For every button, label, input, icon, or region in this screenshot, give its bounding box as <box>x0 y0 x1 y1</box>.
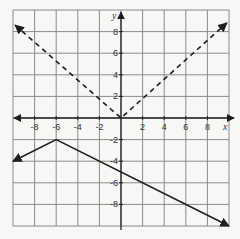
axes <box>14 12 234 230</box>
svg-text:-8: -8 <box>110 199 118 209</box>
svg-text:-2: -2 <box>95 122 103 132</box>
svg-text:6: 6 <box>183 122 188 132</box>
svg-text:-6: -6 <box>52 122 60 132</box>
y-axis-label: y <box>111 10 117 21</box>
svg-text:8: 8 <box>205 122 210 132</box>
svg-text:2: 2 <box>113 91 118 101</box>
svg-text:4: 4 <box>162 122 167 132</box>
x-axis-label: x <box>222 121 228 132</box>
svg-text:-4: -4 <box>74 122 82 132</box>
svg-text:-6: -6 <box>110 178 118 188</box>
svg-text:4: 4 <box>113 70 118 80</box>
svg-text:2: 2 <box>140 122 145 132</box>
svg-text:-2: -2 <box>110 135 118 145</box>
coordinate-plane: -8-6-4-224688642-2-4-6-8 x y <box>0 0 240 239</box>
svg-text:-4: -4 <box>110 156 118 166</box>
svg-text:8: 8 <box>113 27 118 37</box>
svg-text:-8: -8 <box>31 122 39 132</box>
svg-text:6: 6 <box>113 48 118 58</box>
